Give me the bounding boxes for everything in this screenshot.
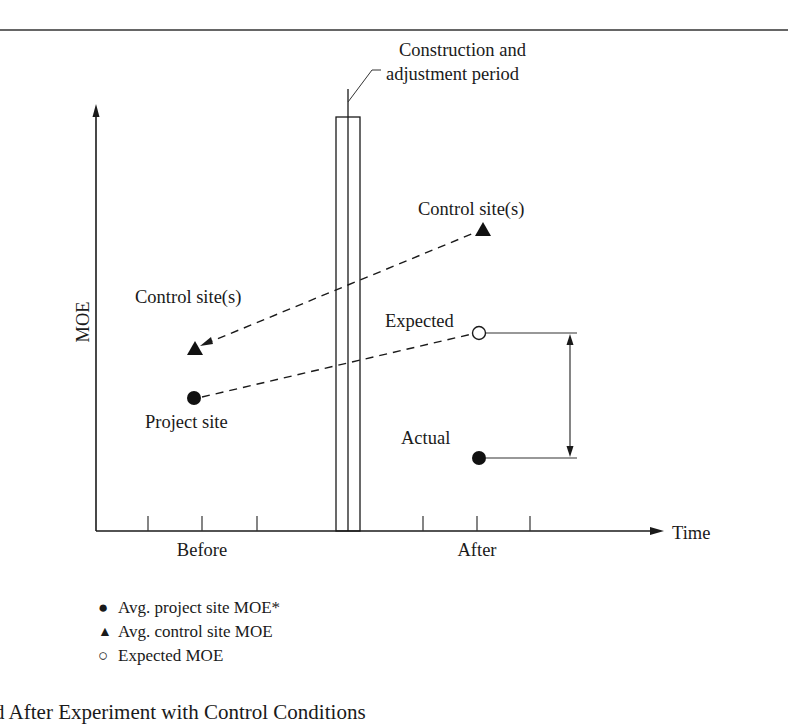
- label-project-before: Project site: [145, 412, 228, 432]
- legend-item-expected: ○ Expected MOE: [98, 644, 280, 668]
- label-expected: Expected: [385, 311, 455, 331]
- open-circle-icon: ○: [98, 644, 114, 668]
- x-label-before: Before: [177, 540, 227, 560]
- x-ticks: [148, 516, 530, 531]
- label-actual: Actual: [401, 428, 450, 448]
- figure-caption: d After Experiment with Control Conditio…: [0, 700, 366, 725]
- arrow-down-icon: [567, 446, 574, 457]
- x-axis-arrow-icon: [650, 527, 664, 535]
- filled-circle-icon: ●: [98, 596, 114, 620]
- x-axis: [96, 516, 664, 535]
- legend: ● Avg. project site MOE* ▲ Avg. control …: [98, 596, 280, 668]
- legend-item-control: ▲ Avg. control site MOE: [98, 620, 280, 644]
- legend-label: Expected MOE: [118, 644, 223, 668]
- label-control-before: Control site(s): [135, 287, 241, 308]
- annotation-line-1: Construction and: [399, 40, 527, 60]
- y-axis-label: MOE: [73, 301, 93, 342]
- x-label-after: After: [457, 540, 496, 560]
- control-before-triangle-icon: [187, 341, 203, 355]
- construction-period-bar: [336, 89, 360, 531]
- actual-circle-icon: [472, 451, 486, 465]
- arrow-up-icon: [567, 334, 574, 345]
- expected-open-circle-icon: [473, 327, 486, 340]
- label-control-after: Control site(s): [418, 199, 524, 220]
- control-after-triangle-icon: [475, 222, 491, 236]
- control-trend-arrow-icon: [200, 337, 213, 346]
- project-trend-line: [202, 334, 472, 397]
- filled-triangle-icon: ▲: [98, 620, 114, 644]
- y-axis-arrow-icon: [93, 104, 100, 117]
- x-axis-label: Time: [672, 523, 710, 543]
- y-axis: [93, 104, 100, 531]
- legend-label: Avg. control site MOE: [118, 620, 273, 644]
- annotation-leader-line: [348, 70, 381, 102]
- legend-label: Avg. project site MOE*: [118, 596, 280, 620]
- project-before-circle-icon: [187, 391, 201, 405]
- annotation-line-2: adjustment period: [386, 64, 520, 84]
- difference-arrow: [567, 334, 574, 457]
- legend-item-project: ● Avg. project site MOE*: [98, 596, 280, 620]
